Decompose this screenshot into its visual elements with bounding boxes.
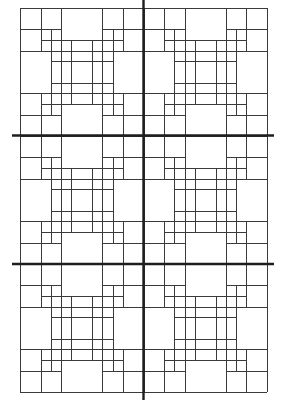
quilt-pattern-diagram: [0, 0, 287, 400]
